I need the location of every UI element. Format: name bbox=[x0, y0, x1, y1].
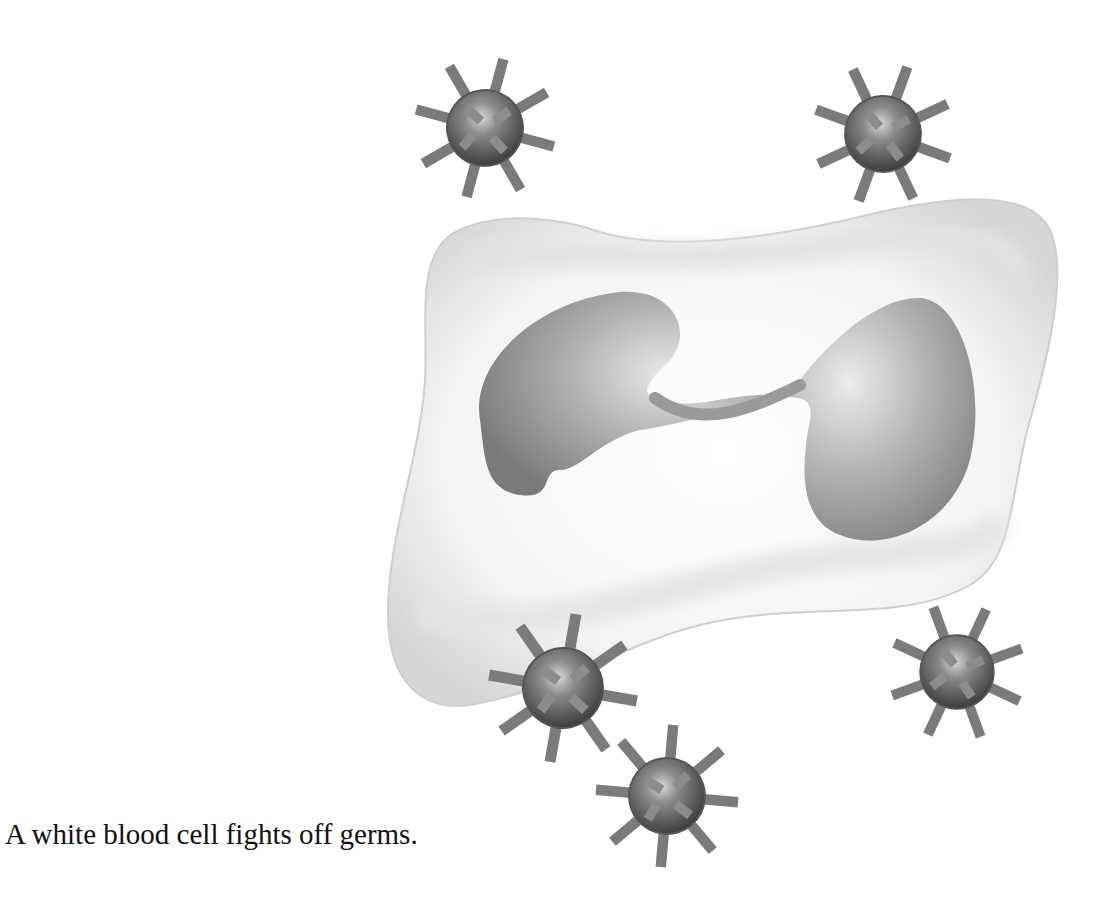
germ-top-left-icon bbox=[398, 41, 573, 216]
white-blood-cell-illustration bbox=[0, 0, 1094, 909]
germ-bottom-center-icon bbox=[590, 719, 744, 873]
germ-top-right-icon bbox=[792, 43, 975, 226]
figure-caption: A white blood cell fights off germs. bbox=[5, 818, 418, 851]
